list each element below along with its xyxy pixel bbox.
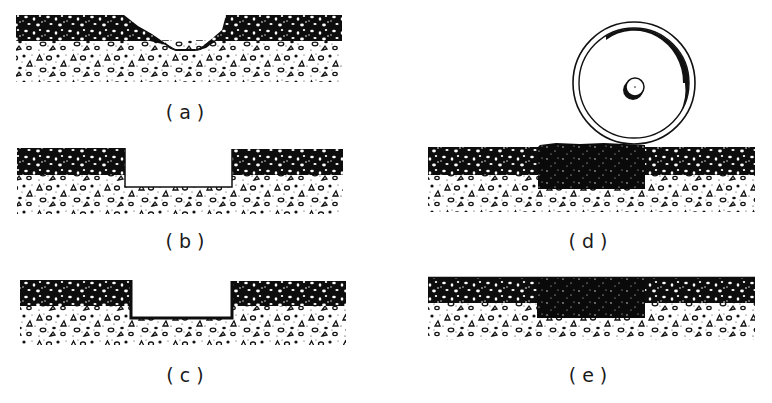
roller-wheel-icon [573,22,695,144]
finished-patch [537,278,645,318]
panel-c [20,280,346,345]
asphalt-surface-left [20,280,131,306]
panel-label-d: (d) [551,230,631,252]
panel-label-a: (a) [148,101,228,123]
panel-a [16,15,342,82]
aggregate-base [16,40,342,82]
pavement-diagram [0,0,772,403]
panel-d [428,22,755,212]
asphalt-surface-right [232,149,343,175]
asphalt-surface-left [17,148,125,175]
panel-label-c: (c) [148,364,228,386]
asphalt-surface-right [232,281,346,306]
panel-label-b: (b) [148,230,228,252]
panel-e [428,277,755,340]
patch-mix [538,143,645,189]
panel-b [17,148,343,214]
panel-label-e: (e) [551,364,631,386]
